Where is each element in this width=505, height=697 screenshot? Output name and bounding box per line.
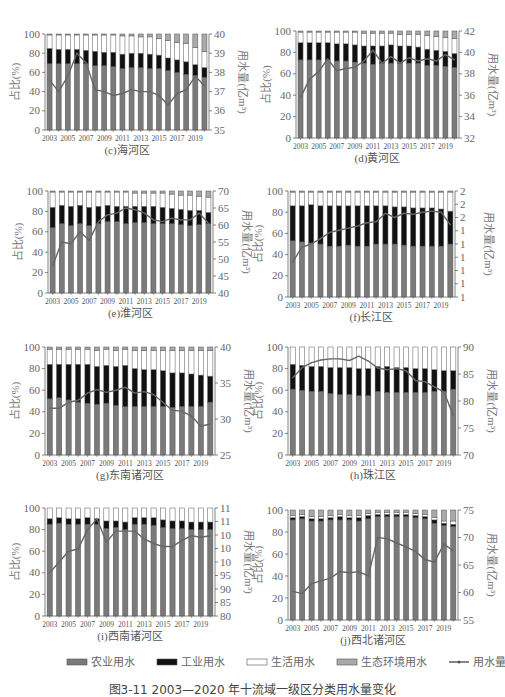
bar-segment [307,32,312,43]
line-point [106,392,107,393]
bar-segment [102,35,107,52]
legend-swatch [247,659,267,665]
legend-label: 用水量 [473,656,505,668]
bar-segment [169,194,174,208]
line-point [358,571,359,572]
right-tick-label: 70 [463,449,475,461]
left-tick-label: 100 [24,502,41,514]
x-tick-label: 2005 [304,459,319,468]
right-tick-label: 45 [218,270,230,282]
bar-segment [132,347,137,350]
bar-segment [102,66,107,130]
bar-segment [425,65,430,138]
bar-segment [114,192,119,206]
right-tick-label: 2 [460,211,466,223]
bar-segment [420,191,425,192]
line-point [320,580,321,581]
bar-segment [334,61,339,138]
bar-segment [325,60,330,138]
bar-segment [336,206,341,246]
x-tick-label: 2019 [436,624,451,633]
line-point [424,381,425,382]
bar-segment [57,347,62,349]
bar-segment [93,35,98,51]
total-water-use-line [301,50,455,97]
bar-segment [151,508,156,518]
bar-segment [375,512,380,514]
x-tick-label: 2005 [61,459,76,468]
right-tick-label: 2 [460,198,466,210]
bar-segment [394,392,399,455]
chart-panel: 0204060801008085909510101011112003200520… [8,502,255,644]
line-point [98,221,99,222]
left-axis-label: 占比(%) [251,381,265,420]
bar-segment [74,34,79,35]
bar-segment [347,510,352,516]
bar-segment [138,53,143,67]
line-point [68,551,69,552]
x-tick-label: 2007 [323,459,338,468]
left-tick-label: 0 [278,449,284,461]
line-point [125,387,126,388]
bar-segment [451,371,456,389]
line-point [181,410,182,411]
line-point [140,91,141,92]
bar-segment [206,191,211,197]
total-water-use-line [50,387,211,426]
line-point [292,591,293,592]
bar-segment [66,400,71,455]
line-point [125,207,126,208]
bar-segment [443,37,448,51]
bar-segment [74,35,79,49]
bar-segment [105,191,110,192]
bar-segment [57,518,62,523]
bar-segment [151,350,156,369]
bar-segment [83,34,88,35]
bar-segment [111,35,116,52]
right-tick-label: 35 [214,124,226,136]
legend-label: 工业用水 [181,656,225,668]
bar-segment [422,517,427,519]
right-tick-label: 75 [463,422,475,434]
bar-segment [83,64,88,130]
line-point [208,223,209,224]
right-tick-label: 42 [464,25,475,37]
bar-segment [178,209,183,224]
bar-segment [160,191,165,193]
bar-segment [398,31,403,34]
bar-segment [56,49,61,63]
total-water-use-line [50,519,211,573]
bar-segment [392,191,397,192]
line-point [134,392,135,393]
line-point [149,91,150,92]
bar-segment [327,246,332,297]
bar-segment [104,365,109,403]
left-tick-label: 60 [29,384,41,396]
x-tick-label: 2017 [417,459,432,468]
line-point [431,211,432,212]
bar-segment [151,525,156,616]
bar-segment [94,404,99,455]
right-tick-label: 10 [220,542,232,554]
bar-segment [398,63,403,138]
bar-segment [184,62,189,74]
line-point [336,70,337,71]
left-tick-label: 80 [272,362,284,374]
line-point [453,550,454,551]
bar-segment [151,224,156,293]
right-tick-label: 10 [220,556,232,568]
x-tick-label: 2015 [402,142,417,151]
bar-segment [132,369,137,407]
bar-segment [392,207,397,244]
bar-segment [57,508,62,518]
legend-line-marker [458,661,461,664]
bar-segment [309,192,314,205]
left-axis-label: 占比(%) [8,542,22,581]
line-point [422,212,423,213]
legend-item: 生活用水 [247,655,315,668]
bar-segment [138,37,143,53]
bar-segment [133,223,138,293]
x-tick-label: 2011 [118,459,133,468]
bar-segment [325,32,330,43]
bar-segment [75,508,80,519]
